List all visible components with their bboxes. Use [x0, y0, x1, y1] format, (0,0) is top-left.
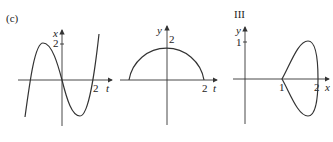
panel-semicircle: y 2 2 t	[120, 24, 217, 125]
figure: (c) x 2 2 t y 2 2 t III y 1 1 2 x	[0, 0, 333, 142]
panel-label-III: III	[234, 8, 245, 20]
tick-label-h2: 2	[314, 81, 320, 93]
tick-label-v: 2	[169, 33, 175, 45]
panel-III: III y 1 1 2 x	[233, 8, 330, 124]
tick-label-h: 2	[202, 82, 208, 94]
loop-curve	[282, 41, 318, 116]
panel-label-c: (c)	[6, 12, 19, 25]
axis-label-y: y	[235, 24, 241, 36]
tick-label-h: 2	[93, 82, 99, 94]
axis-label-y: y	[156, 24, 162, 36]
semicircle-curve	[129, 48, 204, 80]
tick-label-v: 2	[53, 37, 59, 49]
axis-label-t: t	[106, 82, 110, 94]
axis-label-t: t	[213, 82, 217, 94]
axis-label-x: x	[324, 81, 330, 93]
panel-c: (c) x 2 2 t	[6, 12, 112, 126]
tick-label-v: 1	[236, 36, 242, 48]
